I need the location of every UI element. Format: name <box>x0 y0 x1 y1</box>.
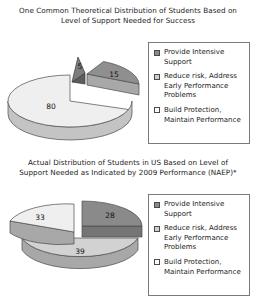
legend-label-build-protection-theoretical: Build Protection, Maintain Performance <box>164 106 245 125</box>
legend-label-intensive-actual: Provide Intensive Support <box>164 200 245 219</box>
build-protection-swatch-icon <box>154 259 160 265</box>
pie-svg-theoretical: 80 15 5 <box>2 38 148 148</box>
legend-label-intensive-theoretical: Provide Intensive Support <box>164 48 245 67</box>
legend-item-build-protection-actual[interactable]: Build Protection, Maintain Performance <box>154 258 245 277</box>
chart-theoretical-distribution: One Common Theoretical Distribution of S… <box>0 0 256 152</box>
pie-value-build-protection-actual: 33 <box>35 213 45 222</box>
legend-actual: Provide Intensive Support Reduce risk, A… <box>148 194 250 296</box>
legend-item-intensive-theoretical[interactable]: Provide Intensive Support <box>154 48 245 67</box>
reduce-risk-swatch-icon <box>154 226 160 232</box>
chart-title-theoretical: One Common Theoretical Distribution of S… <box>14 6 242 26</box>
legend-item-build-protection-theoretical[interactable]: Build Protection, Maintain Performance <box>154 106 245 125</box>
figure-sheet: One Common Theoretical Distribution of S… <box>0 0 256 306</box>
pie-value-build-protection-theoretical: 80 <box>46 102 56 111</box>
chart-actual-distribution: Actual Distribution of Students in US Ba… <box>0 152 256 306</box>
pie-chart-theoretical: 80 15 5 <box>2 38 148 148</box>
pie-chart-actual: 39 28 33 <box>2 190 148 300</box>
pie-value-intensive-theoretical: 5 <box>78 62 83 71</box>
legend-label-reduce-risk-theoretical: Reduce risk, Address Early Performance P… <box>164 72 245 101</box>
pie-slice-build-protection-actual <box>10 204 74 245</box>
legend-item-reduce-risk-theoretical[interactable]: Reduce risk, Address Early Performance P… <box>154 72 245 101</box>
chart-title-actual: Actual Distribution of Students in US Ba… <box>14 158 242 178</box>
pie-value-reduce-risk-theoretical: 15 <box>109 70 119 79</box>
pie-value-reduce-risk-actual: 39 <box>75 247 85 256</box>
intensive-swatch-icon <box>154 50 160 56</box>
legend-item-reduce-risk-actual[interactable]: Reduce risk, Address Early Performance P… <box>154 224 245 253</box>
reduce-risk-swatch-icon <box>154 74 160 80</box>
legend-item-intensive-actual[interactable]: Provide Intensive Support <box>154 200 245 219</box>
legend-label-reduce-risk-actual: Reduce risk, Address Early Performance P… <box>164 224 245 253</box>
build-protection-swatch-icon <box>154 107 160 113</box>
pie-svg-actual: 39 28 33 <box>2 190 148 300</box>
legend-label-build-protection-actual: Build Protection, Maintain Performance <box>164 258 245 277</box>
intensive-swatch-icon <box>154 202 160 208</box>
legend-theoretical: Provide Intensive Support Reduce risk, A… <box>148 42 250 144</box>
pie-value-intensive-actual: 28 <box>105 211 115 220</box>
